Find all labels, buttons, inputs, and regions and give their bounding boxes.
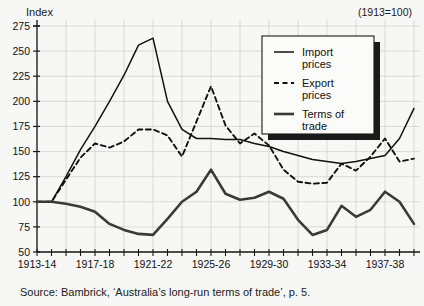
legend-label: trade (302, 120, 327, 132)
y-tick-label: 200 (12, 95, 30, 107)
y-tick-label: 125 (12, 170, 30, 182)
chart-legend[interactable]: ImportpricesExportpricesTerms oftrade (262, 36, 380, 140)
legend-label: prices (302, 58, 332, 70)
chart-figure: Index (1913=100) 50751001251501752002252… (0, 0, 424, 306)
legend-label: Import (302, 46, 333, 58)
series-line-terms-of-trade (37, 170, 414, 235)
y-tick-label: 150 (12, 145, 30, 157)
y-tick-label: 225 (12, 70, 30, 82)
source-caption: Source: Bambrick, ‘Australia’s long-run … (20, 286, 310, 298)
x-tick-label: 1917-18 (76, 258, 115, 270)
y-tick-label: 250 (12, 45, 30, 57)
x-tick-label: 1913-14 (18, 258, 57, 270)
x-tick-label: 1937-38 (366, 258, 405, 270)
y-tick-label: 275 (12, 20, 30, 32)
legend-label: prices (302, 89, 332, 101)
y-tick-label: 100 (12, 196, 30, 208)
x-tick-label: 1925-26 (192, 258, 231, 270)
legend-label: Terms of (302, 108, 345, 120)
x-tick-label: 1929-30 (250, 258, 289, 270)
y-tick-label: 175 (12, 120, 30, 132)
y-tick-label: 50 (18, 246, 30, 258)
y-tick-labels: 5075100125150175200225250275 (12, 20, 30, 258)
x-tick-label: 1921-22 (134, 258, 173, 270)
x-tick-label: 1933-34 (308, 258, 347, 270)
y-tick-label: 75 (18, 221, 30, 233)
plot-area: 5075100125150175200225250275 1913-141917… (0, 0, 424, 306)
x-tick-labels: 1913-141917-181921-221925-261929-301933-… (18, 258, 405, 270)
legend-label: Export (302, 77, 334, 89)
